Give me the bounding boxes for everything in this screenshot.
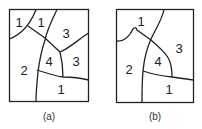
region-label: 1	[37, 15, 44, 30]
figure-a-boundary	[10, 10, 37, 40]
region-label: 1	[165, 82, 172, 97]
region-label: 3	[72, 54, 79, 69]
region-label: 4	[154, 54, 161, 69]
region-label: 2	[20, 63, 27, 78]
region-label: 3	[175, 41, 182, 56]
region-label: 2	[125, 62, 132, 77]
region-label: 3	[62, 26, 69, 41]
region-label: 4	[45, 54, 52, 69]
figure-b-caption: (b)	[149, 111, 161, 122]
region-diagram: 1 1 3 4 3 2 1 1 3 4 2 1 (a) (b)	[0, 0, 202, 129]
region-label: 1	[57, 82, 64, 97]
figure-b-boundary	[143, 71, 194, 80]
region-label: 1	[15, 15, 22, 30]
region-label: 1	[137, 14, 144, 29]
figure-a-boundary	[60, 52, 63, 77]
figure-a-caption: (a)	[43, 111, 55, 122]
